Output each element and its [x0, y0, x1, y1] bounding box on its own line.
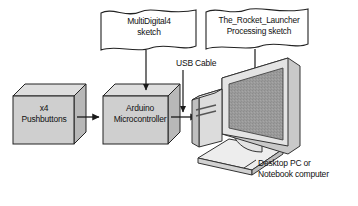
label-desktop-pc-caption: Desktop PC or Notebook computer: [258, 158, 358, 180]
label-multidigital4-sketch: MultiDigital4 sketch: [103, 16, 195, 38]
label-processing-sketch: The_Rocket_Launcher Processing sketch: [207, 15, 311, 37]
label-arduino-microcontroller: Arduino Microcontroller: [98, 103, 182, 125]
label-pushbuttons: x4 Pushbuttons: [8, 103, 80, 125]
label-usb-cable: USB Cable: [176, 58, 240, 69]
diagram-canvas: x4 Pushbuttons Arduino Microcontroller M…: [0, 0, 358, 206]
computer-tower: [192, 89, 222, 147]
